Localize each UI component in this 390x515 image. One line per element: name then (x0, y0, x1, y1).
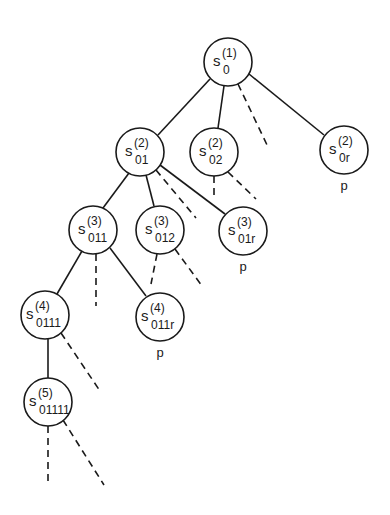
tree-node: s(3)01rp (219, 207, 267, 274)
node-superscript: (3) (154, 214, 169, 228)
node-symbol: s (228, 221, 236, 238)
node-symbol: s (329, 140, 337, 157)
solid-edge (158, 79, 210, 135)
node-mark-label: p (340, 178, 347, 193)
tree-node: s(2)01 (116, 128, 164, 176)
node-symbol: s (199, 142, 207, 159)
dashed-edge (228, 172, 256, 199)
node-symbol: s (26, 305, 34, 322)
node-symbol: s (145, 220, 153, 237)
tree-node: s(2)0rp (320, 126, 368, 193)
dashed-edge (175, 249, 202, 286)
node-superscript: (1) (222, 46, 237, 60)
tree-node: s(5)01111 (24, 378, 72, 426)
solid-edge (110, 248, 146, 296)
node-superscript: (4) (150, 301, 165, 315)
node-symbol: s (78, 220, 86, 237)
solid-edge (249, 74, 324, 135)
node-subscript: 0111 (36, 316, 61, 330)
node-superscript: (3) (237, 215, 252, 229)
solid-edge (103, 173, 129, 208)
node-superscript: (3) (87, 214, 102, 228)
node-subscript: 01r (238, 232, 255, 246)
tree-node: s(4)0111 (21, 291, 69, 339)
node-subscript: 0r (339, 151, 350, 165)
solid-edge (57, 251, 82, 294)
tree-edges (48, 74, 324, 485)
tree-node: s(4)011rp (136, 293, 184, 360)
node-mark-label: p (239, 259, 246, 274)
dashed-edge (61, 333, 100, 391)
node-subscript: 02 (209, 153, 223, 167)
node-superscript: (2) (134, 136, 149, 150)
node-mark-label: p (156, 345, 163, 360)
dashed-edge (238, 84, 268, 147)
solid-edge (146, 175, 154, 206)
tree-node: s(3)012 (136, 206, 184, 254)
node-symbol: s (141, 307, 149, 324)
node-subscript: 0 (223, 63, 230, 77)
dashed-edge (151, 254, 157, 284)
tree-node: s(1)0 (204, 38, 252, 86)
tree-node: s(3)011 (69, 206, 117, 254)
node-symbol: s (213, 52, 221, 69)
dashed-edge (63, 420, 104, 485)
node-subscript: 011 (88, 231, 107, 245)
node-subscript: 01 (135, 153, 149, 167)
tree-node: s(2)02 (190, 128, 238, 176)
node-superscript: (5) (38, 386, 53, 400)
node-subscript: 01111 (39, 403, 70, 417)
search-tree-diagram: s(1)0s(2)01s(2)02s(2)0rps(3)011s(3)012s(… (0, 0, 390, 515)
node-superscript: (2) (208, 136, 223, 150)
node-subscript: 012 (155, 231, 175, 245)
node-subscript: 011r (151, 318, 174, 332)
solid-edge (218, 86, 224, 128)
node-superscript: (4) (35, 299, 50, 313)
node-symbol: s (29, 392, 37, 409)
node-superscript: (2) (338, 134, 353, 148)
node-symbol: s (125, 142, 133, 159)
